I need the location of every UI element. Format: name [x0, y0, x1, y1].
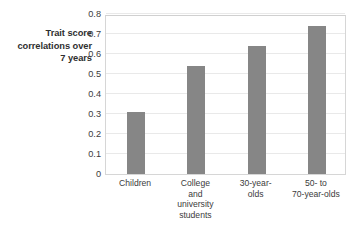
- x-axis-tick-label-line: university: [162, 199, 228, 210]
- y-axis-tick-label: 0.4: [74, 90, 101, 99]
- x-axis-tick-label-line: 50- to: [283, 178, 349, 189]
- x-axis-tick-label: Collegeanduniversitystudents: [162, 178, 228, 220]
- y-axis-tick-label: 0.5: [74, 70, 101, 79]
- y-axis-tick-label: 0.8: [74, 10, 101, 19]
- bar-chart-figure: Trait score correlations over 7 years 0.…: [0, 0, 358, 225]
- x-axis-tick-label-line: Children: [102, 178, 168, 189]
- x-axis-tick-label-line: olds: [223, 189, 289, 200]
- x-axis-tick-label: Children: [102, 178, 168, 189]
- y-axis-tick-label: 0.2: [74, 130, 101, 139]
- x-axis-tick-label-line: 30-year-: [223, 178, 289, 189]
- x-axis-tick-label-line: and: [162, 189, 228, 200]
- x-axis-tick-label-line: students: [162, 210, 228, 221]
- y-axis-tick-label: 0.7: [74, 30, 101, 39]
- plot-area: [105, 15, 346, 175]
- y-axis-tick-label: 0.1: [74, 150, 101, 159]
- gridline: [106, 13, 345, 14]
- bar: [127, 112, 145, 174]
- bar: [187, 66, 205, 174]
- y-axis-tick-label: 0.6: [74, 50, 101, 59]
- x-axis-tick-label: 50- to70-year-olds: [283, 178, 349, 199]
- x-axis-tick-label-line: College: [162, 178, 228, 189]
- bar: [308, 26, 326, 174]
- y-axis-tick-label: 0.3: [74, 110, 101, 119]
- x-axis-tick-label-line: 70-year-olds: [283, 189, 349, 200]
- bar: [248, 46, 266, 174]
- y-axis-tick-labels: 0.80.70.60.50.40.30.20.10: [74, 15, 101, 175]
- x-axis-tick-labels: ChildrenCollegeanduniversitystudents30-y…: [105, 178, 346, 225]
- x-axis-tick-label: 30-year-olds: [223, 178, 289, 199]
- y-axis-tick-label: 0: [74, 170, 101, 179]
- bar-series: [106, 16, 345, 174]
